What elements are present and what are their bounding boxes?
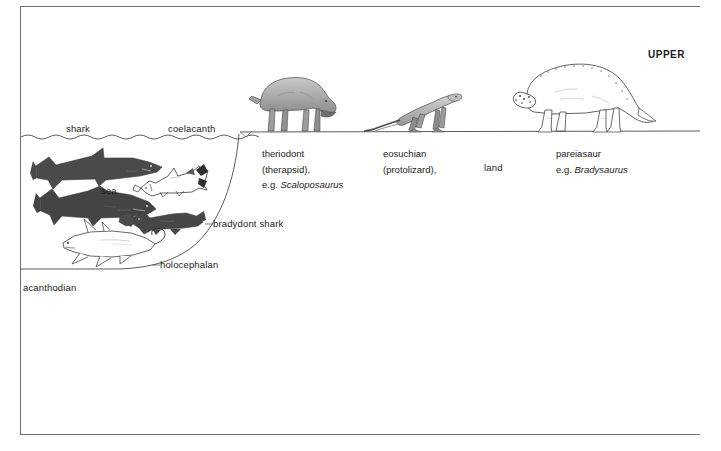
creature-pareiasaur	[513, 64, 656, 132]
label-coelacanth: coelacanth	[168, 122, 215, 135]
creature-shark-upper	[30, 148, 162, 189]
label-land: land	[484, 161, 503, 174]
permian-fauna-figure: shark coelacanth sea bradydont shark hol…	[0, 0, 721, 451]
caption-theriodont-line1: theriodont	[262, 146, 343, 162]
scene-illustration	[0, 0, 721, 451]
caption-theriodont: theriodont (therapsid), e.g. Scaloposaur…	[262, 146, 343, 193]
label-bradydont-shark: bradydont shark	[213, 217, 283, 230]
caption-pareiasaur-example: e.g. Bradysaurus	[556, 162, 628, 178]
caption-theriodont-example: e.g. Scaloposaurus	[262, 177, 343, 193]
caption-theriodont-example-genus: Scaloposaurus	[281, 179, 344, 190]
label-acanthodian: acanthodian	[23, 281, 76, 294]
caption-eosuchian: eosuchian (protolizard),	[383, 146, 436, 177]
label-shark: shark	[66, 122, 90, 135]
land-ground-line	[240, 131, 700, 137]
caption-theriodont-line2: (therapsid),	[262, 162, 343, 178]
caption-theriodont-example-prefix: e.g.	[262, 179, 281, 190]
creature-theriodont	[249, 77, 336, 131]
label-sea: sea	[101, 184, 117, 197]
caption-pareiasaur-example-genus: Bradysaurus	[575, 164, 628, 175]
caption-eosuchian-line1: eosuchian	[383, 146, 436, 162]
water-surface-line	[21, 135, 259, 139]
caption-pareiasaur-line1: pareiasaur	[556, 146, 628, 162]
caption-pareiasaur-example-prefix: e.g.	[556, 164, 575, 175]
label-upper-period: UPPER	[648, 48, 685, 61]
creature-eosuchian	[364, 94, 462, 132]
label-holocephalan: holocephalan	[160, 258, 218, 271]
caption-eosuchian-line2: (protolizard),	[383, 162, 436, 178]
caption-pareiasaur: pareiasaur e.g. Bradysaurus	[556, 146, 628, 177]
